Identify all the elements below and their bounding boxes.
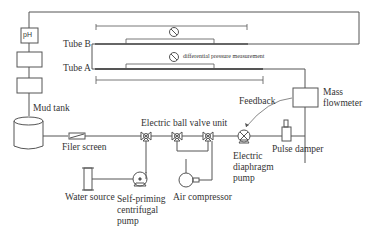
diaphragm-pump-label-3: pump	[233, 174, 255, 184]
pulse-damper	[282, 127, 291, 141]
feedback-label: Feedback	[239, 97, 275, 107]
ball-valve-3	[203, 132, 213, 141]
tube-b-label: Tube B	[63, 40, 91, 50]
ph-label: pH	[23, 31, 32, 38]
mass-flowmeter-box	[293, 88, 318, 107]
ball-valve-2	[172, 132, 182, 141]
instrument-box-2	[17, 78, 42, 93]
water-source	[84, 168, 92, 190]
mud-tank-label: Mud tank	[33, 104, 70, 114]
air-compressor-label: Air compressor	[173, 193, 232, 203]
instrument-box-1	[17, 52, 42, 67]
centrifugal-pump-label-2: centrifugal	[117, 206, 158, 216]
ball-valve-1	[141, 132, 151, 141]
water-source-label: Water source	[65, 193, 115, 203]
mass-flowmeter-label-2: flowmeter	[323, 99, 362, 109]
dp-measurement-label: differential pressure measurement	[183, 53, 265, 59]
ball-valve-unit-label: Electric ball valve unit	[141, 119, 227, 129]
centrifugal-pump-label-1: Self-priming	[117, 195, 166, 205]
filter-screen-label: Filer screen	[62, 143, 107, 153]
air-compressor	[179, 173, 193, 187]
diaphragm-pump-label-2: diaphragm	[233, 163, 274, 173]
tube-a-label: Tube A	[63, 64, 91, 74]
diaphragm-pump-label-1: Electric	[233, 152, 263, 162]
centrifugal-pump-label-3: pump	[117, 217, 139, 227]
pulse-damper-label: Pulse damper	[272, 145, 323, 155]
mass-flowmeter-label-1: Mass	[323, 88, 343, 98]
